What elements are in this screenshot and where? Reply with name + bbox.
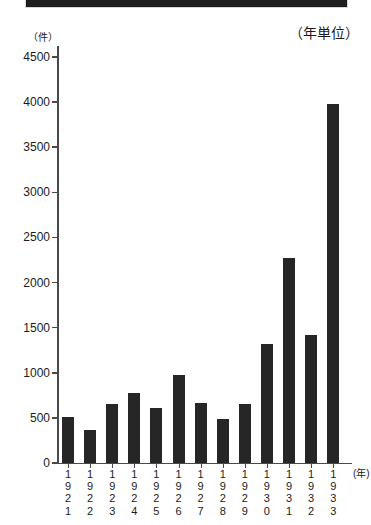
- x-axis-label-digit: 3: [327, 505, 339, 517]
- x-axis-label-digit: 9: [239, 505, 251, 517]
- y-axis-tick-value: 1500: [2, 322, 50, 334]
- y-axis-tick-label: 500: [0, 412, 50, 424]
- x-axis-label-digit: 2: [84, 492, 96, 504]
- y-axis-tick: [52, 327, 58, 329]
- x-axis-label-digit: 3: [261, 492, 273, 504]
- x-axis-label-digit: 6: [173, 505, 185, 517]
- x-axis-label-digit: 3: [327, 492, 339, 504]
- y-axis-tick: [52, 237, 58, 239]
- y-axis-tick: [52, 192, 58, 194]
- x-axis-label-digit: 9: [305, 480, 317, 492]
- x-axis-label-digit: 1: [173, 468, 185, 480]
- x-axis-label-digit: 1: [62, 468, 74, 480]
- bar-1930: [261, 344, 273, 463]
- bar-1921: [62, 417, 74, 463]
- y-axis-tick-value: 0: [2, 457, 50, 469]
- plot-area: 050010001500200025003000350040004500 192…: [0, 0, 371, 525]
- bar-1925: [150, 408, 162, 463]
- bar-1929: [239, 404, 251, 463]
- x-axis-label-1931: 1931: [283, 468, 295, 517]
- bar-1923: [106, 404, 118, 463]
- x-axis-label-digit: 1: [217, 468, 229, 480]
- x-axis-label-digit: 2: [62, 492, 74, 504]
- x-axis-label-digit: 2: [217, 492, 229, 504]
- x-axis-label-1926: 1926: [173, 468, 185, 517]
- y-axis-tick-label: 2500: [0, 231, 50, 243]
- y-axis-tick-value: 2500: [2, 231, 50, 243]
- y-axis-line: [57, 46, 59, 464]
- x-axis-label-digit: 3: [106, 505, 118, 517]
- x-axis-label-digit: 4: [128, 505, 140, 517]
- y-axis-tick: [52, 56, 58, 58]
- x-axis-label-digit: 1: [327, 468, 339, 480]
- x-axis-label-1929: 1929: [239, 468, 251, 517]
- x-axis-label-1933: 1933: [327, 468, 339, 517]
- y-axis-tick-label: 1500: [0, 322, 50, 334]
- y-axis-tick-value: 3000: [2, 186, 50, 198]
- y-axis-tick-label: 0: [0, 457, 50, 469]
- chart-page: （件） （年単位） 050010001500200025003000350040…: [0, 0, 371, 525]
- y-axis-tick-label: 1000: [0, 367, 50, 379]
- bar-1933: [327, 104, 339, 463]
- bar-1932: [305, 335, 317, 463]
- x-axis-label-digit: 2: [84, 505, 96, 517]
- y-axis-tick: [52, 372, 58, 374]
- bar-1926: [173, 375, 185, 463]
- x-axis-label-digit: 2: [106, 492, 118, 504]
- x-axis-label-digit: 9: [327, 480, 339, 492]
- x-axis-label-digit: 1: [239, 468, 251, 480]
- x-axis-label-digit: 1: [195, 468, 207, 480]
- x-axis-label-digit: 2: [150, 492, 162, 504]
- x-axis-label-digit: 1: [84, 468, 96, 480]
- x-axis-label-digit: 9: [84, 480, 96, 492]
- x-axis-label-digit: 8: [217, 505, 229, 517]
- y-axis-tick-value: 500: [2, 412, 50, 424]
- y-axis-tick: [52, 417, 58, 419]
- y-axis-tick-value: 4000: [2, 96, 50, 108]
- x-axis-label-digit: 3: [283, 492, 295, 504]
- x-axis-label-digit: 9: [173, 480, 185, 492]
- y-axis-tick-value: 2000: [2, 277, 50, 289]
- x-axis-label-1925: 1925: [150, 468, 162, 517]
- x-axis-label-digit: 1: [106, 468, 118, 480]
- x-axis-label-digit: 1: [62, 505, 74, 517]
- y-axis-tick-label: 4000: [0, 96, 50, 108]
- x-axis-label-digit: 1: [128, 468, 140, 480]
- x-axis-label-digit: 0: [261, 505, 273, 517]
- bar-1928: [217, 419, 229, 463]
- x-axis-label-1930: 1930: [261, 468, 273, 517]
- x-axis-label-digit: 2: [173, 492, 185, 504]
- x-axis-unit-label: (年): [353, 468, 370, 480]
- x-axis-label-digit: 3: [305, 492, 317, 504]
- x-axis-label-digit: 9: [261, 480, 273, 492]
- x-axis-label-1922: 1922: [84, 468, 96, 517]
- x-axis-label-digit: 5: [150, 505, 162, 517]
- y-axis-tick-label: 3000: [0, 186, 50, 198]
- bar-1924: [128, 393, 140, 463]
- x-axis-label-digit: 2: [239, 492, 251, 504]
- x-axis-label-digit: 9: [62, 480, 74, 492]
- y-axis-tick-value: 1000: [2, 367, 50, 379]
- x-axis-label-digit: 1: [283, 505, 295, 517]
- x-axis-label-digit: 2: [195, 492, 207, 504]
- x-axis-label-digit: 9: [217, 480, 229, 492]
- x-axis-label-1932: 1932: [305, 468, 317, 517]
- x-axis-label-digit: 9: [195, 480, 207, 492]
- x-axis-label-1924: 1924: [128, 468, 140, 517]
- bar-1922: [84, 430, 96, 463]
- bar-1931: [283, 258, 295, 463]
- x-axis-label-1923: 1923: [106, 468, 118, 517]
- y-axis-tick: [52, 146, 58, 148]
- y-axis-tick: [52, 101, 58, 103]
- y-axis-tick-label: 3500: [0, 141, 50, 153]
- x-axis-label-digit: 9: [283, 480, 295, 492]
- x-axis-label-digit: 2: [305, 505, 317, 517]
- x-axis-label-digit: 1: [283, 468, 295, 480]
- y-axis-tick-value: 3500: [2, 141, 50, 153]
- y-axis-tick-label: 2000: [0, 277, 50, 289]
- x-axis-label-digit: 1: [261, 468, 273, 480]
- y-axis-tick-label: 4500: [0, 51, 50, 63]
- x-axis-label-digit: 9: [150, 480, 162, 492]
- x-axis-label-1928: 1928: [217, 468, 229, 517]
- x-axis-label-digit: 7: [195, 505, 207, 517]
